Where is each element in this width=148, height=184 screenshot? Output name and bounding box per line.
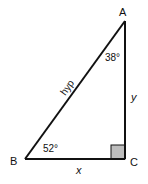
side-x-label: x xyxy=(75,164,82,176)
vertex-a-label: A xyxy=(119,6,127,18)
hypotenuse-side xyxy=(25,21,125,159)
right-angle-marker xyxy=(111,145,125,159)
right-triangle-diagram: A B C 38° 52° hyp y x xyxy=(0,0,148,184)
angle-a-label: 38° xyxy=(105,52,120,63)
angle-b-label: 52° xyxy=(43,143,58,154)
side-y-label: y xyxy=(130,91,138,103)
vertex-b-label: B xyxy=(10,155,17,167)
vertex-c-label: C xyxy=(130,156,138,168)
hypotenuse-label: hyp xyxy=(58,77,77,97)
